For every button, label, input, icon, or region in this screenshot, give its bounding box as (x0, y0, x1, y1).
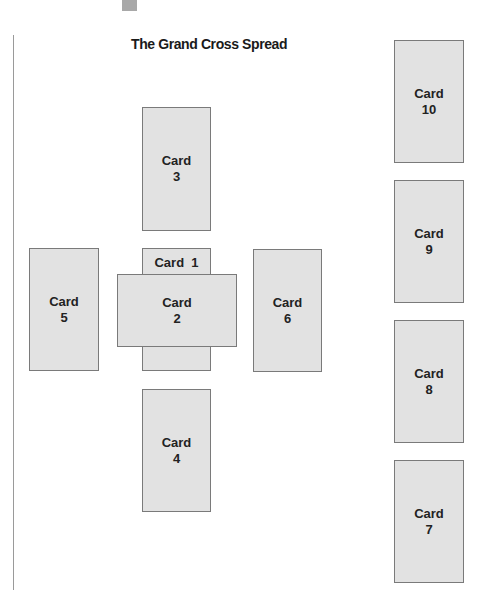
card-6-number: 6 (273, 311, 303, 327)
card-5: Card 5 (29, 248, 99, 371)
card-8: Card 8 (394, 320, 464, 443)
card-7-number: 7 (414, 522, 444, 538)
card-2-word: Card (162, 295, 192, 311)
card-7: Card 7 (394, 460, 464, 583)
diagram-title: The Grand Cross Spread (131, 36, 287, 52)
card-2: Card 2 (117, 274, 237, 347)
card-1-label: Card 1 (154, 255, 198, 271)
card-8-number: 8 (414, 382, 444, 398)
card-10-number: 10 (414, 102, 444, 118)
card-3-word: Card (162, 153, 192, 169)
card-7-word: Card (414, 506, 444, 522)
card-6: Card 6 (253, 249, 322, 372)
card-3: Card 3 (142, 107, 211, 231)
card-9-word: Card (414, 226, 444, 242)
card-5-number: 5 (49, 310, 79, 326)
left-margin-rule (13, 35, 14, 590)
card-10: Card 10 (394, 40, 464, 163)
card-9-number: 9 (414, 242, 444, 258)
card-8-word: Card (414, 366, 444, 382)
card-2-number: 2 (162, 311, 192, 327)
card-6-word: Card (273, 295, 303, 311)
marker-square (122, 0, 137, 11)
card-5-word: Card (49, 294, 79, 310)
card-9: Card 9 (394, 180, 464, 303)
card-4: Card 4 (142, 389, 211, 512)
card-4-word: Card (162, 435, 192, 451)
card-4-number: 4 (162, 451, 192, 467)
card-10-word: Card (414, 86, 444, 102)
card-3-number: 3 (162, 169, 192, 185)
